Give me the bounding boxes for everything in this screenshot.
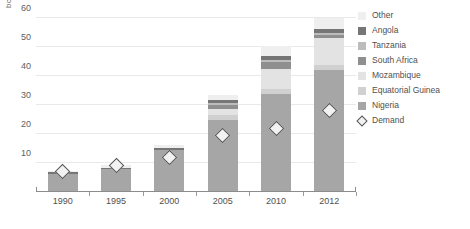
plot-area: 102030405060 (36, 12, 356, 192)
legend-item[interactable]: Equatorial Guinea (358, 84, 468, 97)
x-axis-label: 1995 (106, 196, 126, 206)
legend-label: Nigeria (372, 101, 399, 110)
demand-marker (162, 149, 178, 165)
y-axis-tick-label: 10 (21, 148, 31, 158)
demand-marker (268, 120, 284, 136)
y-axis-tick-label: 30 (21, 90, 31, 100)
y-axis-tick-label: 40 (21, 61, 31, 71)
y-axis-title: bcm (4, 0, 13, 8)
legend-label: Mozambique (372, 71, 421, 80)
x-axis-label: 2005 (213, 196, 233, 206)
legend-item[interactable]: Tanzania (358, 39, 468, 52)
demand-marker (215, 128, 231, 144)
demand-marker (108, 158, 124, 174)
legend-swatch-icon (358, 87, 366, 95)
x-axis-label: 2010 (266, 196, 286, 206)
x-axis-labels: 199019952000200520102012 (36, 196, 356, 214)
legend-swatch-icon (358, 27, 366, 35)
stacked-bar-chart: bcm 102030405060 19901995200020052010201… (0, 0, 470, 229)
y-axis-tick-label: 60 (21, 3, 31, 13)
legend-swatch-icon (358, 102, 366, 110)
legend-item[interactable]: Angola (358, 24, 468, 37)
legend-label: South Africa (372, 56, 418, 65)
demand-marker (55, 164, 71, 180)
legend-label: Tanzania (372, 41, 406, 50)
legend-item[interactable]: Other (358, 9, 468, 22)
legend-label: Equatorial Guinea (372, 86, 440, 95)
y-axis-tick-label: 20 (21, 119, 31, 129)
legend-label: Demand (372, 116, 404, 125)
demand-marker-group (36, 12, 356, 192)
legend-swatch-icon (358, 57, 366, 65)
x-axis-left-cap (36, 187, 37, 192)
legend-item[interactable]: Nigeria (358, 99, 468, 112)
demand-marker (322, 103, 338, 119)
legend-swatch-icon (358, 42, 366, 50)
x-axis-tick (356, 192, 357, 196)
legend-swatch-icon (358, 12, 366, 20)
legend-item[interactable]: South Africa (358, 54, 468, 67)
x-axis-right-cap (355, 187, 356, 192)
y-axis-tick-label: 50 (21, 32, 31, 42)
legend-label: Angola (372, 26, 398, 35)
legend-label: Other (372, 11, 393, 20)
chart-legend: OtherAngolaTanzaniaSouth AfricaMozambiqu… (358, 9, 468, 127)
x-axis-label: 2012 (319, 196, 339, 206)
legend-swatch-icon (358, 72, 366, 80)
legend-item[interactable]: Mozambique (358, 69, 468, 82)
legend-diamond-icon (356, 115, 367, 126)
x-axis-label: 1990 (53, 196, 73, 206)
x-axis-line (36, 191, 356, 192)
x-axis-label: 2000 (159, 196, 179, 206)
legend-item[interactable]: Demand (358, 114, 468, 127)
